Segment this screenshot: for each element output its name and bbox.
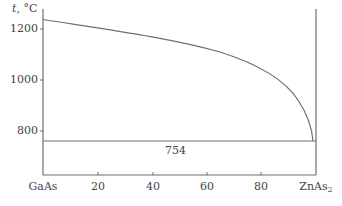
y-tick-label-1000: 1000 — [2, 74, 38, 85]
liquidus-curve — [43, 20, 313, 142]
x-tick-label-znas2: ZnAs2 — [296, 181, 336, 194]
x-tick-label-80: 80 — [241, 181, 281, 192]
x-tick-label-20: 20 — [78, 181, 118, 192]
y-tick-label-1200: 1200 — [2, 23, 38, 34]
eutectic-temperature-label: 754 — [165, 145, 186, 156]
y-axis-label: t, °C — [12, 3, 37, 14]
x-tick-label-60: 60 — [187, 181, 227, 192]
y-tick-label-800: 800 — [2, 125, 38, 136]
phase-diagram — [0, 0, 342, 206]
x-tick-label-40: 40 — [133, 181, 173, 192]
x-tick-label-gaas: GaAs — [23, 181, 63, 192]
